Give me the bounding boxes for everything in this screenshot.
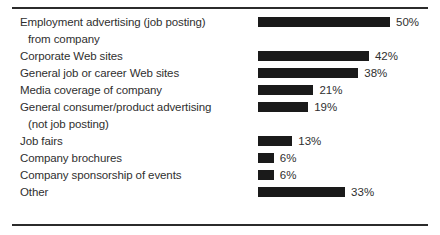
bar-value-label: 6% [280,168,297,182]
category-label: General job or career Web sites [20,65,256,82]
chart-rows: Employment advertising (job posting)from… [0,14,440,201]
chart-row: Company brochures6% [0,150,440,167]
category-label-line2: from company [20,31,256,48]
category-label: Other [20,184,256,201]
bar [258,136,292,146]
category-label: Job fairs [20,133,256,150]
chart-row: General consumer/product advertising(not… [0,99,440,133]
bar [258,85,313,95]
bar-value-label: 19% [314,100,337,114]
bar [258,17,390,27]
category-label: Company sponsorship of events [20,167,256,184]
category-label: Media coverage of company [20,82,256,99]
bar-track: 42% [258,51,438,61]
bar-value-label: 38% [364,66,387,80]
bar-value-label: 33% [351,185,374,199]
bar-track: 19% [258,102,438,112]
chart-row: Job fairs13% [0,133,440,150]
category-label: Company brochures [20,150,256,167]
chart-row: Employment advertising (job posting)from… [0,14,440,48]
bar [258,153,274,163]
bottom-divider-rule [12,224,428,226]
bar-track: 21% [258,85,438,95]
bar-value-label: 50% [396,15,419,29]
bar-value-label: 21% [319,83,342,97]
bar-track: 13% [258,136,438,146]
category-label-line2: (not job posting) [20,116,256,133]
horizontal-bar-chart: Employment advertising (job posting)from… [0,0,440,235]
bar-track: 50% [258,17,438,27]
chart-row: Other33% [0,184,440,201]
chart-row: Media coverage of company21% [0,82,440,99]
bar-value-label: 6% [280,151,297,165]
bar [258,187,345,197]
category-label: General consumer/product advertising(not… [20,99,256,132]
bar [258,51,369,61]
bar-track: 33% [258,187,438,197]
bar [258,170,274,180]
chart-row: General job or career Web sites38% [0,65,440,82]
chart-row: Corporate Web sites42% [0,48,440,65]
category-label: Employment advertising (job posting)from… [20,14,256,47]
bar [258,68,358,78]
bar [258,102,308,112]
chart-row: Company sponsorship of events6% [0,167,440,184]
top-divider-rule [12,7,428,9]
bar-value-label: 13% [298,134,321,148]
bar-track: 38% [258,68,438,78]
bar-track: 6% [258,153,438,163]
category-label: Corporate Web sites [20,48,256,65]
bar-track: 6% [258,170,438,180]
bar-value-label: 42% [375,49,398,63]
